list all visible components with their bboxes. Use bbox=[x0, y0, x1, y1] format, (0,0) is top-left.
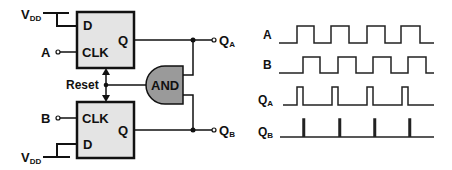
top-vdd-label: VDD bbox=[21, 7, 41, 23]
and-gate-label: AND bbox=[151, 78, 179, 93]
top-ff-q-label: Q bbox=[118, 33, 128, 48]
waveform-qa bbox=[283, 87, 434, 105]
and-gate: AND bbox=[146, 38, 196, 133]
output-qb-terminal bbox=[212, 128, 216, 132]
timing-label-a: A bbox=[263, 28, 272, 42]
bottom-ff-clk-label: CLK bbox=[82, 111, 109, 126]
input-a-terminal bbox=[56, 50, 60, 54]
output-terminals: QA QB bbox=[212, 33, 235, 139]
and-input-wires bbox=[183, 40, 193, 130]
reset-network: Reset bbox=[66, 68, 147, 102]
reset-label: Reset bbox=[66, 78, 99, 92]
timing-label-qb: QB bbox=[258, 125, 273, 140]
bottom-vdd-wire bbox=[43, 144, 77, 157]
waveform-a bbox=[279, 26, 434, 43]
input-b-terminal bbox=[56, 116, 60, 120]
input-a-label: A bbox=[41, 45, 51, 60]
top-flipflop: D CLK Q VDD A bbox=[21, 7, 212, 68]
qb-junction-dot bbox=[191, 128, 196, 133]
output-qb-label: QB bbox=[219, 123, 235, 139]
qa-junction-dot bbox=[191, 38, 196, 43]
timing-label-qa: QA bbox=[258, 93, 273, 108]
bottom-flipflop: CLK Q D VDD B bbox=[21, 102, 212, 166]
bottom-vdd-label: VDD bbox=[21, 150, 41, 166]
top-vdd-wire bbox=[43, 13, 77, 26]
bottom-ff-q-label: Q bbox=[118, 123, 128, 138]
timing-diagram: A B QA QB bbox=[258, 26, 434, 140]
top-ff-clk-label: CLK bbox=[82, 45, 109, 60]
top-ff-d-label: D bbox=[83, 18, 92, 33]
input-b-label: B bbox=[41, 111, 50, 126]
timing-label-b: B bbox=[263, 58, 272, 72]
output-qa-label: QA bbox=[219, 33, 235, 49]
waveform-qb bbox=[280, 119, 434, 137]
phase-frequency-detector-diagram: D CLK Q VDD A CLK Q D VDD B Reset bbox=[0, 0, 452, 170]
output-qa-terminal bbox=[212, 38, 216, 42]
bottom-ff-d-label: D bbox=[83, 137, 92, 152]
waveform-b bbox=[279, 57, 434, 73]
